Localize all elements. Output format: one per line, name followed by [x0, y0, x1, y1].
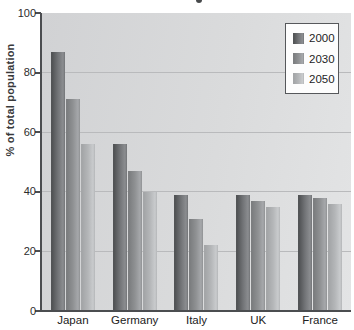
bar-italy-2050: [204, 245, 218, 311]
legend-swatch-icon: [293, 53, 304, 64]
bar-italy-2030: [189, 219, 203, 311]
bar-group-uk: [236, 195, 280, 311]
legend-label: 2050: [309, 73, 335, 85]
bar-group-italy: [174, 195, 218, 311]
bar-france-2050: [328, 204, 342, 311]
legend-swatch-icon: [293, 73, 304, 84]
y-tick-label-40: 40: [0, 185, 36, 198]
bar-uk-2030: [251, 201, 265, 311]
bar-chart: % of total population 020406080100 Japan…: [0, 0, 354, 330]
legend-item-2000: 2000: [293, 32, 338, 44]
bar-germany-2030: [128, 171, 142, 311]
bar-japan-2000: [51, 52, 65, 311]
y-tick-label-80: 80: [0, 66, 36, 79]
legend-item-2030: 2030: [293, 53, 338, 65]
bar-group-japan: [51, 52, 95, 311]
legend-swatch-icon: [293, 33, 304, 44]
x-label-uk: UK: [227, 314, 289, 326]
legend-label: 2000: [309, 32, 335, 44]
y-tick-label-20: 20: [0, 245, 36, 258]
bar-japan-2030: [66, 99, 80, 311]
bar-germany-2050: [143, 192, 157, 311]
bar-italy-2000: [174, 195, 188, 311]
bar-group-germany: [113, 144, 157, 311]
cropped-title-fragment: [196, 0, 202, 3]
y-tick-label-60: 60: [0, 126, 36, 139]
x-label-germany: Germany: [104, 314, 166, 326]
bar-japan-2050: [81, 144, 95, 311]
y-tick-label-100: 100: [0, 7, 36, 20]
legend: 200020302050: [285, 23, 339, 94]
x-label-france: France: [289, 314, 351, 326]
legend-label: 2030: [309, 53, 335, 65]
x-label-italy: Italy: [166, 314, 228, 326]
legend-item-2050: 2050: [293, 73, 338, 85]
x-axis-labels: JapanGermanyItalyUKFrance: [42, 314, 351, 326]
bar-germany-2000: [113, 144, 127, 311]
x-label-japan: Japan: [42, 314, 104, 326]
bar-uk-2000: [236, 195, 250, 311]
y-tick-label-0: 0: [0, 305, 36, 318]
bar-group-france: [298, 195, 342, 311]
y-axis-label: % of total population: [4, 0, 18, 200]
bar-france-2030: [313, 198, 327, 311]
bar-france-2000: [298, 195, 312, 311]
y-axis-line: [40, 13, 42, 312]
x-axis-line: [40, 310, 351, 312]
bar-uk-2050: [266, 207, 280, 311]
